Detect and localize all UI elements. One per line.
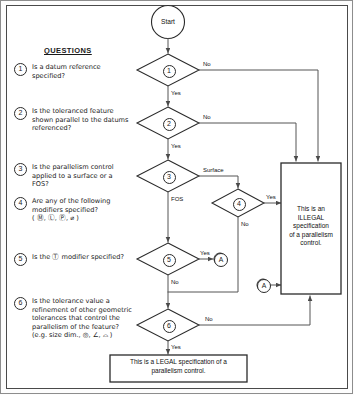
connector-a-in-label: A <box>257 279 271 293</box>
decision-q4-number: 4 <box>233 198 246 211</box>
illegal-result-text: This is an ILLEGAL specification of a pa… <box>283 205 339 248</box>
edge-label-q5-no: No <box>171 279 179 285</box>
edge-label-q1-no: No <box>203 61 211 67</box>
decision-q6-number: 6 <box>163 320 176 333</box>
legal-result-text: This is a LEGAL specification of a paral… <box>112 358 245 375</box>
edge-label-q4-yes: Yes <box>266 194 276 200</box>
question-3-number: 3 <box>14 163 27 176</box>
question-item-4: 4 Are any of the following modifiers spe… <box>14 197 156 223</box>
question-1-number: 1 <box>14 63 27 76</box>
connector-a-out-label: A <box>214 253 228 267</box>
question-item-1: 1 Is a datum reference specified? <box>14 63 156 80</box>
edge-q3-surface <box>199 176 238 188</box>
question-item-6: 6 Is the tolerance value a refinement of… <box>14 297 156 340</box>
question-5-number: 5 <box>14 253 27 266</box>
questions-panel: QUESTIONS <box>14 46 154 55</box>
question-5-text: Is the Ⓣ modifier specified? <box>32 253 124 262</box>
question-3-text: Is the parallelism control applied to a … <box>32 163 114 189</box>
edge-label-q3-surface: Surface <box>203 167 224 173</box>
question-2-text: Is the toleranced feature shown parallel… <box>32 107 128 133</box>
edge-label-q6-yes: Yes <box>171 344 181 350</box>
edge-q6-no <box>199 296 310 325</box>
question-item-3: 3 Is the parallelism control applied to … <box>14 163 156 189</box>
edge-q2-no <box>199 123 296 161</box>
edge-label-q5-yes: Yes <box>200 250 210 256</box>
edge-label-q4-no: No <box>241 221 249 227</box>
edge-label-q2-no: No <box>203 114 211 120</box>
start-node-label: Start <box>151 18 185 25</box>
edge-label-q2-yes: Yes <box>171 143 181 149</box>
question-6-number: 6 <box>14 297 27 310</box>
flowchart-page: Start 1 2 3 4 5 6 A A No Yes No Yes Surf… <box>0 0 354 395</box>
question-2-number: 2 <box>14 107 27 120</box>
question-4-number: 4 <box>14 197 27 210</box>
decision-q1-number: 1 <box>163 65 176 78</box>
edge-label-q6-no: No <box>205 316 213 322</box>
decision-q2-number: 2 <box>163 118 176 131</box>
decision-q5-number: 5 <box>163 254 176 267</box>
question-item-2: 2 Is the toleranced feature shown parall… <box>14 107 156 133</box>
edge-label-q1-yes: Yes <box>171 90 181 96</box>
question-1-text: Is a datum reference specified? <box>32 63 101 80</box>
questions-heading: QUESTIONS <box>44 46 154 55</box>
decision-q3-number: 3 <box>163 171 176 184</box>
question-item-5: 5 Is the Ⓣ modifier specified? <box>14 253 156 266</box>
question-4-text: Are any of the following modifiers speci… <box>32 197 110 223</box>
question-6-text: Is the tolerance value a refinement of o… <box>32 297 132 340</box>
edge-q1-no <box>199 70 318 161</box>
edge-label-q3-fos: FOS <box>171 196 183 202</box>
